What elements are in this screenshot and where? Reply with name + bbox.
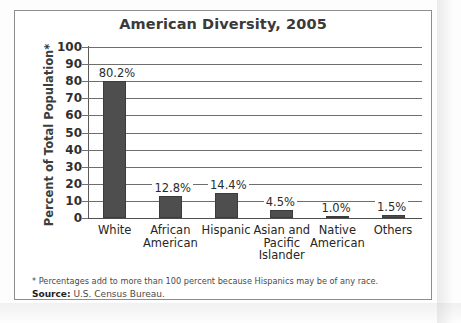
y-tick-mark-70 <box>82 98 88 99</box>
y-tick-label-40: 40 <box>40 144 82 156</box>
gridline-50 <box>88 133 422 134</box>
bar-value-label-3: 4.5% <box>264 196 297 208</box>
bar-value-label-1: 12.8% <box>152 182 193 194</box>
gridline-60 <box>88 115 422 116</box>
y-tick-mark-10 <box>82 201 88 202</box>
bar-others[interactable] <box>382 215 405 218</box>
y-tick-label-100: 100 <box>40 41 82 53</box>
y-tick-mark-40 <box>82 150 88 151</box>
bar-hispanic[interactable] <box>215 193 238 218</box>
y-tick-label-10: 10 <box>40 195 82 207</box>
y-tick-mark-30 <box>82 167 88 168</box>
category-label-line: American <box>143 236 198 250</box>
category-label-line: Others <box>374 223 413 237</box>
plot-area <box>88 47 422 218</box>
bar-native-american[interactable] <box>326 216 349 219</box>
gridline-100 <box>88 47 422 48</box>
gridline-0 <box>88 218 422 219</box>
y-tick-mark-20 <box>82 184 88 185</box>
figure-container: American Diversity, 2005 Percent of Tota… <box>0 0 461 323</box>
gridline-30 <box>88 167 422 168</box>
y-tick-label-30: 30 <box>40 161 82 173</box>
bar-value-label-2: 14.4% <box>208 179 249 191</box>
y-tick-label-0: 0 <box>40 212 82 224</box>
bar-value-label-4: 1.0% <box>319 202 352 214</box>
gridline-40 <box>88 150 422 151</box>
gridline-80 <box>88 81 422 82</box>
gridline-70 <box>88 98 422 99</box>
y-tick-mark-60 <box>82 115 88 116</box>
y-axis-tick-labels: 1009080706050403020100 <box>34 0 82 323</box>
gridline-90 <box>88 64 422 65</box>
y-tick-label-20: 20 <box>40 178 82 190</box>
source-label: Source: <box>32 289 71 299</box>
y-tick-mark-50 <box>82 133 88 134</box>
scan-edge-shadow-right <box>437 0 461 323</box>
y-tick-label-50: 50 <box>40 127 82 139</box>
y-tick-mark-100 <box>82 47 88 48</box>
bar-white[interactable] <box>103 81 126 218</box>
source-line: Source: U.S. Census Bureau. <box>32 289 165 299</box>
bar-value-label-0: 80.2% <box>97 67 138 79</box>
bar-value-label-5: 1.5% <box>375 201 408 213</box>
category-label-line: American <box>310 236 365 250</box>
gridline-20 <box>88 184 422 185</box>
footnote: * Percentages add to more than 100 perce… <box>32 276 378 286</box>
bar-asian-and-pacific-islander[interactable] <box>270 210 293 218</box>
category-label-line: White <box>98 223 131 237</box>
y-tick-mark-90 <box>82 64 88 65</box>
y-tick-label-80: 80 <box>40 75 82 87</box>
y-tick-mark-80 <box>82 81 88 82</box>
y-tick-label-90: 90 <box>40 58 82 70</box>
y-tick-label-60: 60 <box>40 109 82 121</box>
source-text: U.S. Census Bureau. <box>71 289 165 299</box>
y-tick-label-70: 70 <box>40 92 82 104</box>
gridline-10 <box>88 201 422 202</box>
bar-african-american[interactable] <box>159 196 182 218</box>
category-label-line: Islander <box>259 248 305 262</box>
y-tick-mark-0 <box>82 218 88 219</box>
category-label-others: Others <box>355 224 431 237</box>
